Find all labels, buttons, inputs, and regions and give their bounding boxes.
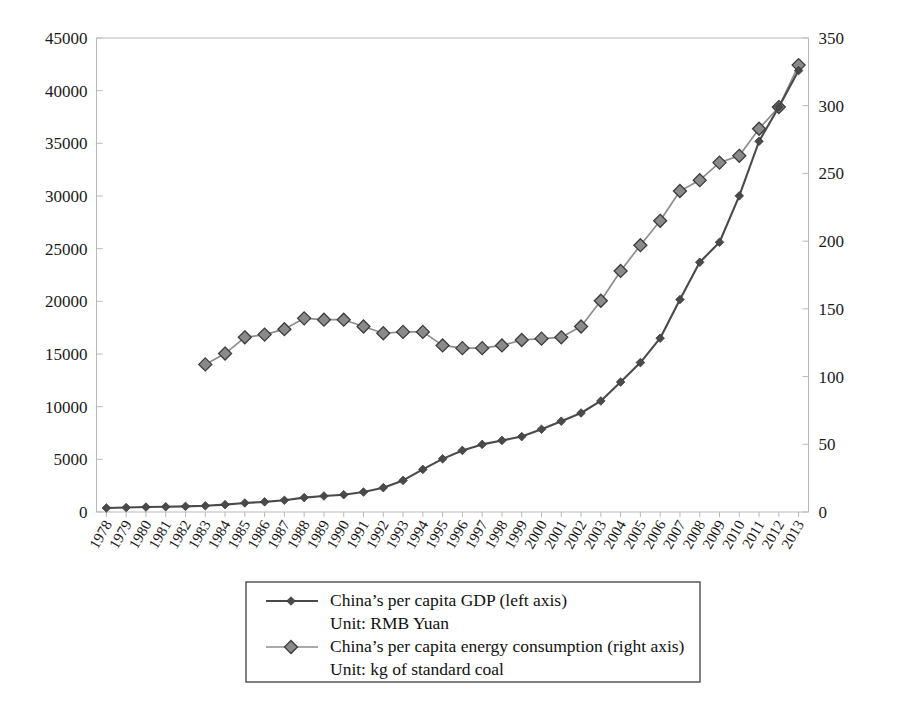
y-axis-left-tick-label: 35000 (45, 134, 88, 153)
y-axis-right-tick-label: 150 (819, 300, 845, 319)
y-axis-left-tick-label: 30000 (45, 187, 88, 206)
x-axis-tick-label: 2013 (778, 518, 807, 552)
data-point-marker (201, 502, 210, 511)
data-point-marker (399, 476, 408, 485)
data-point-marker (456, 342, 469, 355)
data-point-marker (397, 325, 410, 338)
series-line (205, 65, 798, 364)
y-axis-left-tick-label: 45000 (45, 29, 88, 48)
data-point-marker (419, 465, 428, 474)
legend-label-unit: Unit: kg of standard coal (330, 659, 504, 679)
data-point-marker (438, 455, 447, 464)
y-axis-right-tick-label: 0 (819, 503, 828, 522)
data-point-marker (298, 312, 311, 325)
data-point-marker (258, 328, 271, 341)
data-point-marker (337, 313, 350, 326)
legend-label-primary: China’s per capita GDP (left axis) (330, 590, 567, 610)
data-point-marker (535, 332, 548, 345)
y-axis-left-tick-label: 10000 (45, 398, 88, 417)
data-point-marker (161, 502, 170, 511)
y-axis-right-tick-label: 350 (819, 29, 845, 48)
plot-frame (97, 38, 809, 512)
y-axis-right-tick-label: 100 (819, 368, 845, 387)
data-point-marker (537, 425, 546, 434)
data-point-marker (199, 358, 212, 371)
data-point-marker (458, 446, 467, 455)
y-axis-right-tick-label: 300 (819, 97, 845, 116)
left-value-axis: 0500010000150002000025000300003500040000… (45, 29, 103, 522)
data-point-marker (557, 417, 566, 426)
y-axis-right-tick-label: 250 (819, 164, 845, 183)
data-point-marker (495, 339, 508, 352)
data-point-marker (555, 331, 568, 344)
category-axis: 1978197919801981198219831984198519861987… (86, 512, 807, 551)
data-point-marker (377, 327, 390, 340)
y-axis-left-tick-label: 0 (79, 503, 88, 522)
data-point-marker (357, 320, 370, 333)
data-point-marker (300, 493, 309, 502)
data-point-marker (515, 334, 528, 347)
data-point-marker (517, 432, 526, 441)
chart-figure: 0500010000150002000025000300003500040000… (0, 0, 908, 721)
data-point-marker (478, 440, 487, 449)
data-point-marker (339, 490, 348, 499)
data-point-marker (280, 496, 289, 505)
data-point-marker (142, 503, 151, 512)
data-point-marker (102, 504, 111, 513)
dual-axis-line-chart: 0500010000150002000025000300003500040000… (0, 0, 908, 721)
y-axis-left-tick-label: 40000 (45, 82, 88, 101)
data-point-marker (221, 500, 230, 509)
data-point-marker (241, 499, 250, 508)
legend-label-unit: Unit: RMB Yuan (330, 613, 449, 633)
data-point-marker (181, 502, 190, 511)
data-point-marker (676, 295, 685, 304)
y-axis-left-tick-label: 5000 (54, 450, 88, 469)
data-point-marker (498, 436, 507, 445)
y-axis-left-tick-label: 20000 (45, 292, 88, 311)
data-point-marker (317, 313, 330, 326)
data-point-marker (755, 137, 764, 146)
data-point-marker (260, 498, 269, 507)
y-axis-left-tick-label: 25000 (45, 240, 88, 259)
data-point-marker (122, 503, 131, 512)
series-line (106, 71, 798, 508)
y-axis-right-tick-label: 200 (819, 232, 845, 251)
data-point-marker (733, 149, 746, 162)
data-point-marker (278, 323, 291, 336)
legend-label-primary: China’s per capita energy consumption (r… (330, 636, 685, 656)
data-point-marker (320, 492, 329, 501)
y-axis-left-tick-label: 15000 (45, 345, 88, 364)
series-layer (102, 59, 805, 513)
chart-legend: China’s per capita GDP (left axis)Unit: … (246, 582, 700, 682)
data-point-marker (735, 192, 744, 201)
data-point-marker (673, 185, 686, 198)
data-point-marker (416, 325, 429, 338)
data-point-marker (476, 342, 489, 355)
data-point-marker (379, 483, 388, 492)
y-axis-right-tick-label: 50 (819, 435, 836, 454)
data-point-marker (359, 488, 368, 497)
data-point-marker (436, 339, 449, 352)
